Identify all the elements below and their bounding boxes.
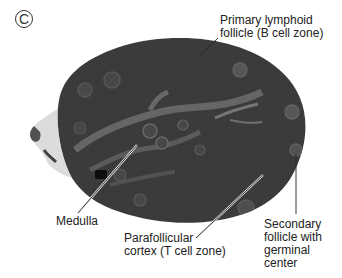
- lymph-node-tissue: [30, 38, 306, 223]
- label-parafollicular-cortex: Parafollicular cortex (T cell zone): [124, 232, 226, 258]
- panel-letter-badge: C: [15, 10, 33, 28]
- label-primary-follicle: Primary lymphoid follicle (B cell zone): [220, 14, 323, 40]
- label-secondary-follicle: Secondary follicle with germinal center: [264, 218, 322, 270]
- lymph-node-figure: C Primary lymphoid follicle (B cell zone…: [0, 0, 342, 278]
- label-medulla: Medulla: [56, 215, 98, 228]
